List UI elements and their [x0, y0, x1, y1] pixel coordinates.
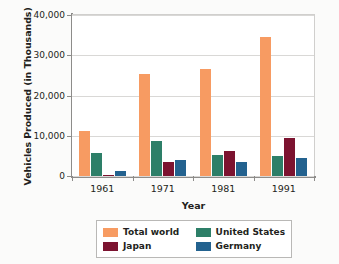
- bar-japan-1991: [284, 138, 295, 176]
- legend-label-germany: Germany: [216, 241, 262, 251]
- bar-germany-1971: [175, 160, 186, 176]
- chart-legend: Total worldUnited StatesJapanGermany: [96, 220, 292, 258]
- bar-chart-figure: Vehicles Produced (in Thousands) 010,000…: [0, 0, 339, 264]
- plot-area: 010,00020,00030,00040,000196119711981199…: [72, 14, 315, 176]
- bar-germany-1981: [236, 162, 247, 176]
- x-tick-mark-1981: [193, 176, 194, 181]
- x-tick-mark-end: [314, 176, 315, 181]
- bar-group-1991: 1991: [254, 15, 315, 176]
- x-tick-mark-1991: [254, 176, 255, 181]
- bar-united-states-1981: [212, 155, 223, 176]
- y-tick-label-10000: 10,000: [34, 131, 66, 141]
- x-tick-label-1961: 1961: [90, 183, 114, 194]
- bar-group-1981: 1981: [193, 15, 254, 176]
- y-tick-label-30000: 30,000: [34, 50, 66, 60]
- y-tick-label-0: 0: [59, 171, 65, 181]
- y-axis-title: Vehicles Produced (in Thousands): [22, 16, 33, 186]
- bar-japan-1971: [163, 162, 174, 176]
- legend-item-total-world[interactable]: Total world: [103, 227, 192, 237]
- legend-swatch-japan: [103, 242, 118, 251]
- bar-group-1971: 1971: [133, 15, 194, 176]
- legend-item-japan[interactable]: Japan: [103, 241, 192, 251]
- bar-germany-1961: [115, 171, 126, 176]
- x-tick-label-1991: 1991: [272, 183, 296, 194]
- bar-total-world-1971: [139, 74, 150, 176]
- x-tick-label-1981: 1981: [211, 183, 235, 194]
- y-tick-label-40000: 40,000: [34, 10, 66, 20]
- x-tick-label-1971: 1971: [151, 183, 175, 194]
- bar-total-world-1981: [200, 69, 211, 176]
- x-tick-mark-1971: [133, 176, 134, 181]
- bar-total-world-1961: [79, 131, 90, 176]
- bar-japan-1981: [224, 151, 235, 176]
- legend-item-germany[interactable]: Germany: [196, 241, 285, 251]
- legend-label-total-world: Total world: [123, 227, 179, 237]
- legend-label-united-states: United States: [216, 227, 285, 237]
- bar-united-states-1961: [91, 153, 102, 176]
- legend-swatch-total-world: [103, 228, 118, 237]
- bar-united-states-1991: [272, 156, 283, 176]
- y-tick-label-20000: 20,000: [34, 91, 66, 101]
- legend-swatch-united-states: [196, 228, 211, 237]
- bar-germany-1991: [296, 158, 307, 176]
- bar-total-world-1991: [260, 37, 271, 176]
- bar-united-states-1971: [151, 141, 162, 176]
- x-axis-title: Year: [72, 200, 315, 211]
- bar-group-1961: 1961: [72, 15, 133, 176]
- bar-japan-1961: [103, 175, 114, 176]
- x-tick-mark-1961: [72, 176, 73, 181]
- legend-item-united-states[interactable]: United States: [196, 227, 285, 237]
- legend-swatch-germany: [196, 242, 211, 251]
- legend-label-japan: Japan: [123, 241, 151, 251]
